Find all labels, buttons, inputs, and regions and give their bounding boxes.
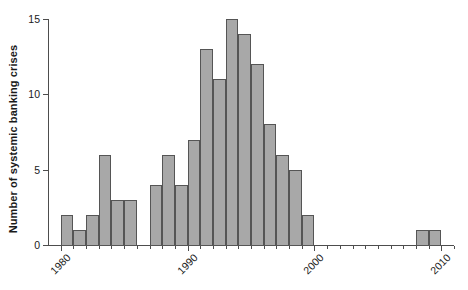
x-tick-mark	[391, 246, 392, 249]
x-tick-mark	[314, 246, 315, 251]
x-tick-mark	[124, 246, 125, 249]
x-tick-mark	[175, 246, 176, 249]
bar	[175, 185, 188, 246]
x-tick-mark	[86, 246, 87, 249]
bar	[264, 124, 277, 246]
x-tick-mark	[150, 246, 151, 249]
x-tick-mark	[429, 246, 430, 249]
x-tick-label: 2010	[426, 252, 454, 280]
bar	[213, 79, 226, 246]
x-tick-mark	[378, 246, 379, 249]
x-tick-mark	[73, 246, 74, 249]
bar	[429, 230, 442, 246]
x-tick-label: 2000	[299, 252, 327, 280]
bar	[162, 155, 175, 246]
x-tick-mark	[302, 246, 303, 249]
x-tick-mark	[226, 246, 227, 249]
x-tick-mark	[61, 246, 62, 251]
bar	[111, 200, 124, 246]
chart-figure: Number of systemic banking crises 051015…	[0, 0, 468, 290]
x-tick-mark	[403, 246, 404, 249]
bar	[73, 230, 86, 246]
y-tick-mark	[43, 170, 49, 171]
x-tick-mark	[111, 246, 112, 249]
x-tick-mark	[251, 246, 252, 249]
bar	[99, 155, 112, 246]
x-tick-mark	[188, 246, 189, 251]
x-tick-mark	[454, 246, 455, 249]
y-axis-line	[48, 19, 49, 246]
bar	[276, 155, 289, 246]
y-tick-label: 10	[20, 89, 40, 100]
x-tick-mark	[289, 246, 290, 249]
y-tick-label: 0	[20, 240, 40, 251]
y-tick-label: 15	[20, 14, 40, 25]
bar	[238, 34, 251, 246]
y-tick-mark	[43, 245, 49, 246]
x-tick-mark	[441, 246, 442, 251]
x-tick-mark	[327, 246, 328, 249]
bar	[188, 140, 201, 246]
x-tick-label: 1990	[172, 252, 200, 280]
y-tick-mark	[43, 94, 49, 95]
x-tick-mark	[200, 246, 201, 249]
x-tick-mark	[365, 246, 366, 249]
bar	[124, 200, 137, 246]
bar	[289, 170, 302, 246]
y-tick-mark	[43, 19, 49, 20]
bar	[416, 230, 429, 246]
bar	[226, 19, 239, 246]
bar	[61, 215, 74, 246]
y-tick-label: 5	[20, 165, 40, 176]
x-tick-mark	[264, 246, 265, 249]
x-tick-mark	[340, 246, 341, 249]
bar	[302, 215, 315, 246]
x-tick-mark	[238, 246, 239, 249]
x-tick-label: 1980	[45, 252, 73, 280]
x-tick-mark	[353, 246, 354, 249]
y-axis-title: Number of systemic banking crises	[0, 0, 26, 268]
x-tick-mark	[213, 246, 214, 249]
y-axis-title-text: Number of systemic banking crises	[7, 45, 19, 234]
x-tick-mark	[137, 246, 138, 249]
x-tick-mark	[276, 246, 277, 249]
bar	[86, 215, 99, 246]
x-tick-mark	[162, 246, 163, 249]
bar	[150, 185, 163, 246]
bar	[251, 64, 264, 246]
x-tick-mark	[99, 246, 100, 249]
bar	[200, 49, 213, 246]
x-tick-mark	[416, 246, 417, 249]
